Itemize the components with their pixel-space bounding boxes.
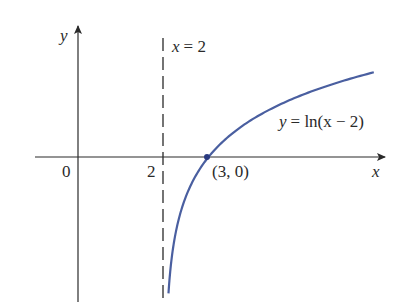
origin-tick-label: 0 xyxy=(62,162,71,181)
curve-label: y= ln(x − 2) xyxy=(277,112,364,131)
curve-label-lhs: y xyxy=(277,112,287,131)
asymptote-label-lhs: x xyxy=(171,37,180,56)
graph-canvas: y x 0 2 (3, 0) x= 2 y= ln(x − 2) xyxy=(0,0,411,308)
x-axis-label: x xyxy=(371,162,380,181)
y-axis-label: y xyxy=(58,26,68,45)
point-label: (3, 0) xyxy=(212,162,249,181)
asymptote-label-rhs: = 2 xyxy=(184,37,206,56)
x-two-tick-label: 2 xyxy=(147,162,156,181)
asymptote-label: x= 2 xyxy=(171,37,206,56)
curve-label-rhs: = ln(x − 2) xyxy=(291,112,364,131)
x-intercept-point xyxy=(204,154,210,160)
ln-curve xyxy=(168,72,373,293)
